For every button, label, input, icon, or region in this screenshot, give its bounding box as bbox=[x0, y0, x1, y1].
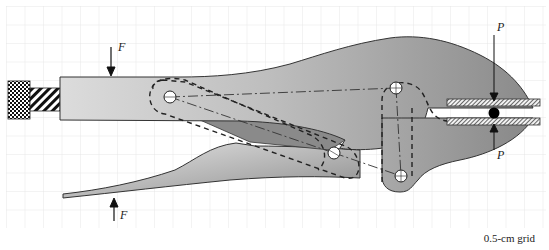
force-label-P-bottom: P bbox=[497, 148, 504, 163]
diagram-canvas: F F P P 0.5-cm grid bbox=[0, 0, 549, 250]
pin-jaw-bottom bbox=[395, 170, 407, 182]
pin-toggle bbox=[328, 147, 340, 159]
force-label-F-bottom: F bbox=[120, 208, 127, 223]
force-label-F-top: F bbox=[118, 40, 125, 55]
grid-scale-caption: 0.5-cm grid bbox=[484, 232, 535, 244]
pin-jaw-top bbox=[390, 82, 402, 94]
screw-thread bbox=[30, 88, 60, 111]
workpiece-ball bbox=[489, 108, 500, 119]
knurled-knob bbox=[8, 81, 30, 119]
force-label-P-top: P bbox=[497, 20, 504, 35]
pin-handle bbox=[164, 91, 176, 103]
